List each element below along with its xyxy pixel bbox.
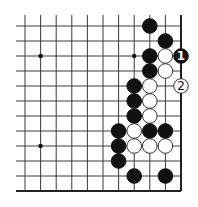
black-stone [127,169,142,184]
black-stone-icon [111,139,126,154]
black-stone [143,64,158,79]
black-stone-icon [127,79,142,94]
black-stone-icon [158,124,173,139]
black-stone-icon [143,124,158,139]
black-stone [127,94,142,109]
black-stone [143,124,158,139]
black-stone [127,109,142,124]
white-stone-icon [127,139,142,154]
white-stone-icon [158,49,173,64]
white-stone [127,139,142,154]
black-stone [143,49,158,64]
black-stone-icon [158,169,173,184]
black-stone-icon [143,19,158,34]
black-stone [127,79,142,94]
white-stone-icon [158,64,173,79]
star-point-icon [132,54,136,58]
white-stone [158,49,173,64]
black-stone [158,34,173,49]
white-stone: 2 [174,79,189,94]
black-stone-icon [127,109,142,124]
black-stone [111,154,126,169]
black-stone-icon [143,64,158,79]
black-stone-icon [127,169,142,184]
white-stone [158,139,173,154]
black-stone [158,169,173,184]
white-stone [127,124,142,139]
white-stone-icon [143,109,158,124]
white-stone [143,139,158,154]
star-point-icon [38,54,42,58]
white-stone [143,94,158,109]
black-stone [158,124,173,139]
black-stone-icon [127,94,142,109]
black-stone-icon [158,34,173,49]
white-stone-icon [143,139,158,154]
move-number-label: 2 [177,79,185,93]
white-stone [143,79,158,94]
black-stone [143,19,158,34]
white-stone-icon [158,139,173,154]
black-stone-icon [111,154,126,169]
black-stone-icon [111,124,126,139]
white-stone-icon [143,79,158,94]
white-stone-icon [127,124,142,139]
black-stone [111,124,126,139]
white-stone [143,109,158,124]
white-stone [158,64,173,79]
go-board: 12 [0,0,198,207]
white-stone-icon [143,94,158,109]
black-stone: 1 [174,49,189,64]
star-point-icon [38,144,42,148]
move-number-label: 1 [177,49,185,63]
black-stone [111,139,126,154]
black-stone-icon [143,49,158,64]
